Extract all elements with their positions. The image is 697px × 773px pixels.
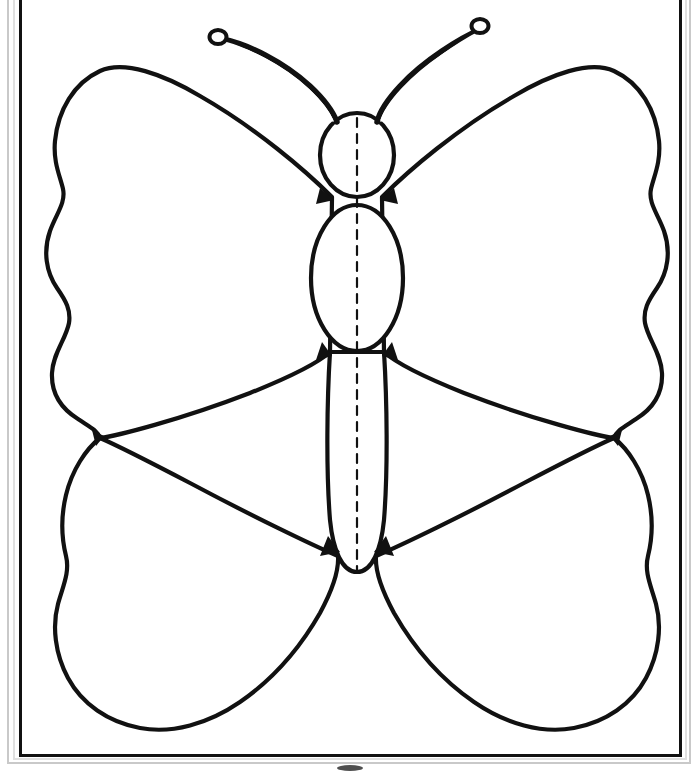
page-smudge — [337, 765, 363, 771]
antenna-left-club-icon — [210, 30, 227, 44]
antenna-right-club-icon — [472, 19, 489, 33]
worksheet-page: Butterfly Symmetry Template — [0, 0, 697, 773]
butterfly-line-drawing — [0, 0, 697, 773]
